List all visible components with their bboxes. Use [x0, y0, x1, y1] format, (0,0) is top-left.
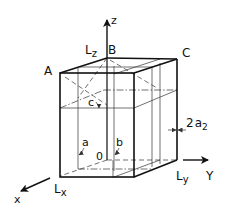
x-axis-label: x	[14, 193, 21, 206]
point-b-label: B	[108, 43, 116, 57]
point-c-label: C	[182, 46, 190, 60]
point-a-label: A	[44, 64, 53, 78]
plane-a-label: a	[82, 136, 89, 149]
box-diagram: z Y x A B C 0 Lz Lx Ly a b c 2a2	[0, 0, 227, 215]
plane-c-label: c	[88, 96, 94, 109]
plane-b-label: b	[116, 136, 123, 149]
origin-label: 0	[96, 150, 103, 163]
lx-label: Lx	[54, 182, 67, 198]
lz-label: Lz	[85, 43, 97, 59]
y-axis-label: Y	[205, 169, 214, 183]
z-axis-label: z	[111, 14, 117, 27]
gap-label: 2a2	[186, 116, 208, 132]
box-outline	[60, 58, 177, 177]
ly-label: Ly	[176, 169, 189, 185]
x-axis	[21, 178, 50, 191]
